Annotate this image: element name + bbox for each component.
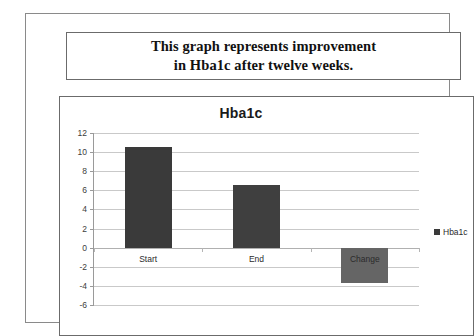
y-axis-tick-mark [90,267,94,268]
caption-box: This graph represents improvement in Hba… [66,32,461,80]
x-axis-category-label: End [249,254,264,264]
y-axis-tick-label: -6 [79,300,87,310]
x-axis-tick-mark [202,248,203,252]
y-axis-tick-label: 12 [78,128,87,138]
y-axis-tick-mark [90,209,94,210]
y-axis-tick-label: -4 [79,281,87,291]
y-axis-tick-label: 0 [82,243,87,253]
x-axis-category-label: Start [139,254,157,264]
y-axis-tick-mark [90,305,94,306]
caption-line-2: in Hba1c after twelve weeks. [151,56,376,75]
y-axis-tick-label: 8 [82,166,87,176]
y-axis-tick-label: 6 [82,185,87,195]
y-axis-tick-label: -2 [79,262,87,272]
y-axis-tick-mark [90,171,94,172]
chart-legend: Hba1c [434,227,468,237]
gridline [94,286,419,287]
y-axis-tick-mark [90,133,94,134]
caption-line-1: This graph represents improvement [151,37,376,56]
gridline [94,305,419,306]
x-axis-tick-mark [419,248,420,252]
chart-container: Hba1c 121086420-2-4-6 StartEndChange Hba… [59,96,474,336]
y-axis-line [93,133,94,305]
legend-label: Hba1c [443,227,468,237]
y-axis-tick-mark [90,190,94,191]
y-axis-tick-mark [90,229,94,230]
y-axis-tick-label: 4 [82,204,87,214]
bar [233,185,280,248]
y-axis-tick-mark [90,286,94,287]
page-border: This graph represents improvement in Hba… [25,13,450,323]
x-axis-tick-mark [94,248,95,252]
x-axis-tick-mark [311,248,312,252]
plot-area: 121086420-2-4-6 StartEndChange [94,133,419,305]
caption-text: This graph represents improvement in Hba… [151,37,376,74]
gridline [94,133,419,134]
chart-title: Hba1c [60,105,422,121]
legend-swatch-icon [434,229,440,235]
y-axis-tick-label: 2 [82,224,87,234]
x-axis-category-label: Change [350,254,380,264]
bar [125,147,172,247]
y-axis-tick-mark [90,152,94,153]
y-axis-tick-label: 10 [78,147,87,157]
